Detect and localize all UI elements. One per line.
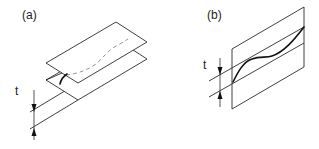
diagram-figure: (a) t (b) <box>0 0 319 149</box>
vertical-plane <box>232 7 304 109</box>
lower-extension-line <box>30 100 78 129</box>
thickness-label-b: t <box>203 58 207 72</box>
panel-a-label: (a) <box>22 8 37 22</box>
panel-b-label: (b) <box>207 8 222 22</box>
panel-b: (b) t <box>203 7 304 109</box>
panel-a: (a) t <box>15 8 147 140</box>
arrow-up-icon <box>32 128 37 136</box>
thickness-label-a: t <box>15 84 19 98</box>
